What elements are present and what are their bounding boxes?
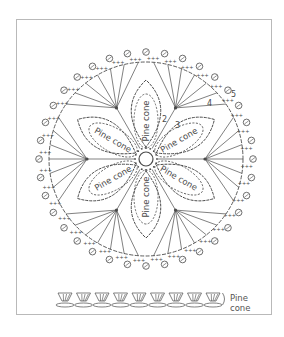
pine-cone-fan <box>130 293 148 307</box>
motif: Pine conePine conePine conePine conePine… <box>36 49 257 270</box>
picot-mark <box>245 121 249 124</box>
legend-label-line1: Pine <box>230 293 251 303</box>
round-number-label: 3 <box>175 121 180 130</box>
dc-stitch-marks: +++ <box>232 197 245 203</box>
picot: +++ <box>133 257 150 270</box>
spoke-stitch <box>176 210 217 225</box>
picot: +++ <box>106 55 124 65</box>
picot-mark <box>237 104 241 107</box>
picot-mark <box>39 176 43 179</box>
chain-stitch <box>75 303 93 307</box>
picot-mark <box>144 51 148 54</box>
dc-stitch-marks: +++ <box>240 163 253 169</box>
picot-mark <box>163 52 167 55</box>
picot: +++ <box>42 184 55 199</box>
pine-cone-fan <box>93 293 111 307</box>
picot-mark <box>213 239 217 242</box>
spoke-stitch <box>205 159 234 201</box>
picot: +++ <box>184 247 203 255</box>
picot-mark <box>91 250 95 253</box>
dc-stitch-marks: +++ <box>181 64 194 70</box>
pine-cone-label: Pine cone <box>93 125 134 154</box>
pine-cone-fan <box>167 293 185 307</box>
legend-strip <box>56 293 225 307</box>
picot: +++ <box>196 63 209 78</box>
dc-stitch-marks: +++ <box>42 132 55 138</box>
picot-mark <box>125 263 129 266</box>
picot-mark <box>37 158 41 161</box>
picot: +++ <box>240 137 255 151</box>
picot: +++ <box>238 174 255 186</box>
spoke-stitch <box>176 83 207 108</box>
center-stitch <box>149 148 151 150</box>
picot-mark <box>237 211 241 214</box>
picot-mark <box>51 211 55 214</box>
picot: +++ <box>49 200 62 216</box>
dc-stitch-marks: +++ <box>80 74 93 80</box>
fan-stitch <box>139 294 141 301</box>
picot: +++ <box>42 115 60 126</box>
picot: +++ <box>99 248 113 263</box>
spoke-stitch <box>117 64 125 107</box>
dc-stitch-marks: +++ <box>230 112 243 118</box>
fan-stitch <box>195 294 197 301</box>
dc-stitch-marks: +++ <box>70 229 83 235</box>
center-stitch <box>137 166 139 168</box>
dc-stitch-marks: +++ <box>112 59 125 65</box>
picot: +++ <box>83 240 96 255</box>
picot-mark <box>75 239 79 242</box>
picot-mark <box>62 226 66 229</box>
fan-stitch <box>158 294 160 301</box>
dc-stitch-marks: +++ <box>56 100 69 106</box>
picot-mark <box>226 89 230 92</box>
picot: +++ <box>161 50 176 64</box>
dc-stitch-marks: +++ <box>67 86 80 92</box>
legend-label-line2: cone <box>230 303 251 313</box>
chain-stitch <box>167 303 185 307</box>
picot-mark <box>51 104 55 107</box>
picot-mark <box>249 139 253 142</box>
dc-stitch-marks: +++ <box>164 58 177 64</box>
dc-stitch-marks: +++ <box>43 184 56 190</box>
pine-cone-fan <box>112 293 130 307</box>
spoke-stitch <box>50 159 87 173</box>
picot-mark <box>249 176 253 179</box>
picot-mark <box>91 65 95 68</box>
spoke-stitch <box>117 210 125 253</box>
picot-mark <box>43 194 47 197</box>
legend-bracket <box>223 293 225 305</box>
fan-stitch <box>102 294 104 301</box>
picot-mark <box>198 250 202 253</box>
dc-stitch-marks: +++ <box>115 254 128 260</box>
center-ring <box>139 152 153 166</box>
picot: +++ <box>223 209 242 218</box>
pine-cone-petal: Pine cone <box>131 170 161 238</box>
picot: +++ <box>61 86 80 94</box>
center-stitch <box>141 148 143 150</box>
chain-stitch <box>112 303 130 307</box>
pine-cone-label: Pine cone <box>141 176 151 217</box>
dc-stitch-marks: +++ <box>99 248 112 254</box>
picot: +++ <box>232 192 250 203</box>
dc-stitch-marks: +++ <box>49 200 62 206</box>
picot: +++ <box>50 100 69 109</box>
center-stitch <box>134 158 136 160</box>
spoke-stitch <box>86 83 117 108</box>
picot-mark <box>163 263 167 266</box>
dc-stitch-marks: +++ <box>58 215 71 221</box>
picot-mark <box>107 258 111 261</box>
legend-label: Pine cone <box>230 293 251 313</box>
dc-stitch-marks: +++ <box>150 256 163 262</box>
dc-stitch-marks: +++ <box>147 55 160 61</box>
picot: +++ <box>179 55 193 70</box>
pine-cone-label: Pine cone <box>93 163 134 192</box>
picot: +++ <box>212 224 231 232</box>
fan-stitch <box>65 294 67 301</box>
chain-stitch <box>186 303 204 307</box>
spoke-stitch <box>75 210 116 225</box>
dc-stitch-marks: +++ <box>39 149 52 155</box>
dc-stitch-marks: +++ <box>168 253 181 259</box>
chain-stitch <box>204 303 222 307</box>
spoke-stitch <box>176 104 226 108</box>
picot-mark <box>75 76 79 79</box>
